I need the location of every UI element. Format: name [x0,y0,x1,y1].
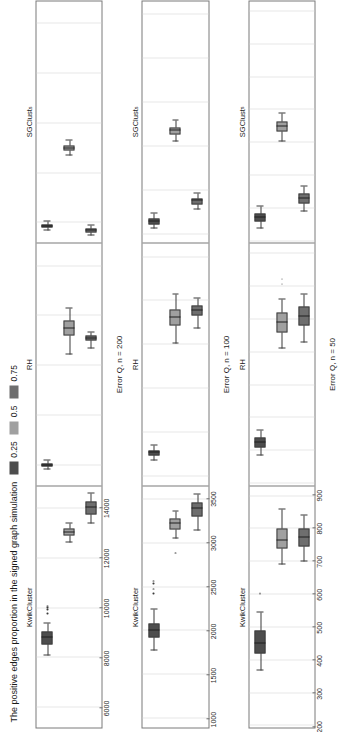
gridline [249,449,314,450]
gridline [142,145,207,146]
legend: The positive edges proportion in the sig… [2,0,24,728]
gridline [142,101,207,102]
gridline [142,431,207,432]
axis-tick-label: 3000 [209,535,216,551]
facet-label-KwikCluster: KwikCluster [235,485,248,728]
axis-tick-label: 500 [315,621,322,633]
axis-n200: 14000120001000080006000Error Q, n = 200 [102,0,128,728]
facet-SGClusts-n100 [142,1,207,243]
gridline [249,10,314,11]
axis-tick-mark [312,659,315,660]
gridline [249,240,314,241]
axis-tick-mark [312,527,315,528]
axis-tick-label: 6000 [102,700,109,716]
facet-RH-n200 [36,243,101,485]
gridline [36,414,101,415]
axis-title-n50: Error Q, n = 50 [327,0,336,728]
gridline [36,706,101,707]
gridline [142,673,207,674]
facet-label-RH: RH [22,243,35,486]
facet-strip: KwikClusterRHSGClusts [22,0,35,728]
panel-n50: KwikClusterRHSGClusts9008007006005004003… [235,0,341,728]
gridline [249,285,314,286]
axis-tick-mark [312,593,315,594]
axis-title-n200: Error Q, n = 200 [114,0,123,728]
axis-tick-mark [206,498,209,499]
axis-tick-label: 700 [315,555,322,567]
axis-title-n100: Error Q, n = 100 [221,0,230,728]
axis-tick-mark [99,657,102,658]
facet-label-SGClusts: SGClusts [128,0,141,243]
facet-KwikCluster-n100 [142,486,207,727]
axis-tick-label: 3500 [209,491,216,507]
gridline [142,542,207,543]
gridline [249,141,314,142]
axis-tick-label: 2000 [209,623,216,639]
axis-tick-label: 800 [315,522,322,534]
legend-label-05: 0.5 [8,405,18,417]
gridline [249,384,314,385]
legend-item-025[interactable]: 0.25 [8,441,18,475]
panel-n100: KwikClusterRHSGClusts3500300025002000150… [128,0,234,728]
legend-item-075[interactable]: 0.75 [8,364,18,398]
gridline [249,351,314,352]
legend-item-05[interactable]: 0.5 [8,405,18,434]
axis-tick-label: 8000 [102,650,109,666]
facet-label-KwikCluster: KwikCluster [22,485,35,728]
axis-tick-label: 10000 [102,598,109,617]
gridline [249,174,314,175]
axis-tick-mark [312,725,315,726]
gridline [249,593,314,594]
gridline [36,656,101,657]
axis-tick-mark [312,692,315,693]
gridline [142,57,207,58]
gridline [36,22,101,23]
axis-tick-mark [206,674,209,675]
gridline [249,76,314,77]
gridline [249,626,314,627]
axis-tick-label: 900 [315,489,322,501]
axis-tick-label: 300 [315,688,322,700]
facet-label-KwikCluster: KwikCluster [128,485,141,728]
axis-tick-label: 12000 [102,548,109,567]
gridline [142,343,207,344]
facet-label-SGClusts: SGClusts [22,0,35,243]
gridline [249,692,314,693]
axis-tick-mark [206,586,209,587]
axis-tick-mark [312,626,315,627]
panel-stack: KwikClusterRHSGClusts1400012000100008000… [22,0,341,728]
gridline [36,265,101,266]
gridline [249,416,314,417]
legend-swatch-075 [9,385,18,398]
gridline [249,43,314,44]
gridline [142,189,207,190]
facet-strip: KwikClusterRHSGClusts [235,0,248,728]
axis-tick-mark [312,560,315,561]
gridline [249,482,314,483]
gridline [36,72,101,73]
gridline [142,717,207,718]
gridline [249,659,314,660]
facet-SGClusts-n200 [36,1,101,243]
axis-tick-label: 600 [315,588,322,600]
facet-KwikCluster-n200 [36,486,101,727]
gridline [249,252,314,253]
axis-tick-mark [99,607,102,608]
gridline [249,108,314,109]
axis-tick-label: 1500 [209,667,216,683]
axis-tick-label: 1000 [209,711,216,727]
facet-label-SGClusts: SGClusts [235,0,248,243]
axis-tick-label: 400 [315,654,322,666]
facet-RH-n100 [142,243,207,485]
facet-strip: KwikClusterRHSGClusts [128,0,141,728]
axis-tick-mark [99,557,102,558]
axis-tick-label: 14000 [102,498,109,517]
axis-tick-label: 200 [315,721,322,732]
gridline [142,387,207,388]
facet-label-RH: RH [128,243,141,486]
legend-label-075: 0.75 [8,364,18,381]
gridline [142,586,207,587]
gridline [36,364,101,365]
